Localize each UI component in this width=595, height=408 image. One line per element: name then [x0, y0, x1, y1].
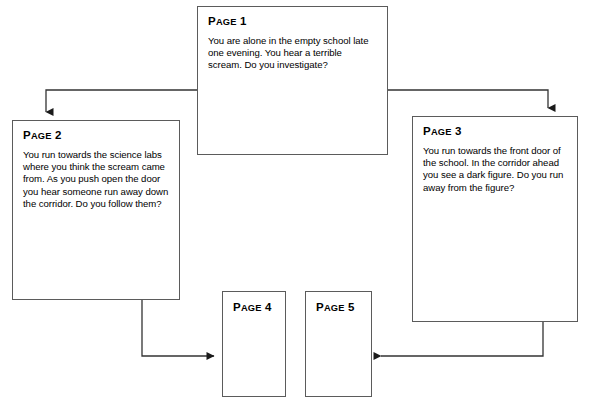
- page-2-body: You run towards the science labs where y…: [23, 149, 169, 211]
- node-page-5[interactable]: PAGE 5: [305, 291, 372, 397]
- page-1-title: PAGE 1: [208, 16, 377, 28]
- node-page-2[interactable]: PAGE 2 You run towards the science labs …: [12, 120, 180, 300]
- edge-page1-yes-to-page2: [46, 90, 197, 112]
- page-5-title: PAGE 5: [316, 302, 361, 314]
- page-1-body: You are alone in the empty school late o…: [208, 35, 377, 72]
- page-4-title: PAGE 4: [233, 302, 275, 314]
- edge-page1-no-to-page3: [388, 90, 548, 108]
- page-3-title: PAGE 3: [423, 126, 567, 138]
- page-2-title: PAGE 2: [23, 130, 169, 142]
- flowchart-canvas: PAGE 1 You are alone in the empty school…: [0, 0, 595, 408]
- node-page-4[interactable]: PAGE 4: [222, 291, 286, 397]
- edge-page2-no-to-page4: [142, 295, 214, 356]
- node-page-1[interactable]: PAGE 1 You are alone in the empty school…: [197, 6, 388, 155]
- page-3-body: You run towards the front door of the sc…: [423, 145, 567, 195]
- node-page-3[interactable]: PAGE 3 You run towards the front door of…: [412, 116, 578, 322]
